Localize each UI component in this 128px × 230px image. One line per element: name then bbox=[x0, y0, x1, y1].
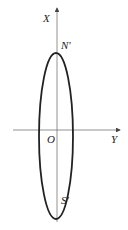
origin-label: O bbox=[47, 133, 55, 145]
point-s-label: S' bbox=[61, 194, 70, 206]
y-axis-label: Y bbox=[111, 133, 119, 145]
x-axis-label: X bbox=[42, 12, 51, 24]
point-n-label: N' bbox=[60, 39, 71, 51]
ellipse-diagram: X Y O N' S' bbox=[0, 0, 128, 230]
